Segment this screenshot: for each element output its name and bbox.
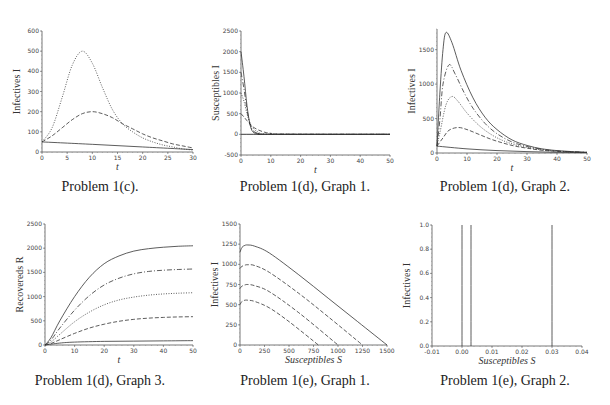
x-tick-label: 10 <box>463 155 471 162</box>
x-tick-label: 0 <box>435 155 439 162</box>
caption-4: Problem 1(d), Graph 3. <box>0 373 200 389</box>
y-tick-label: 250 <box>226 321 238 328</box>
series-line <box>241 93 390 134</box>
y-tick-label: 500 <box>226 301 238 308</box>
y-tick-label: 300 <box>28 88 40 95</box>
y-tick-label: 400 <box>28 67 40 74</box>
x-tick-label: 5 <box>65 154 69 161</box>
y-tick-label: 2000 <box>223 48 238 55</box>
chart-5: 0250500750100012501500025050075010001250… <box>209 220 395 365</box>
y-tick-label: 1500 <box>27 268 42 275</box>
x-tick-label: 0 <box>43 347 47 354</box>
y-tick-label: 1000 <box>27 293 42 300</box>
x-tick-label: 750 <box>308 347 320 354</box>
y-tick-label: 500 <box>423 115 435 122</box>
x-tick-label: 30 <box>189 154 197 161</box>
y-tick-label: 1000 <box>223 89 238 96</box>
x-tick-label: -0.01 <box>424 348 440 355</box>
series-line <box>240 284 338 345</box>
x-tick-label: 0.04 <box>575 348 589 355</box>
x-axis-label: t <box>314 164 317 175</box>
y-tick-label: 0.0 <box>419 342 429 349</box>
x-tick-label: 20 <box>297 157 305 164</box>
y-tick-label: 1500 <box>419 46 434 53</box>
chart-6: -0.010.000.010.020.030.040.00.20.40.60.8… <box>401 221 589 366</box>
x-axis-label: t <box>511 162 514 173</box>
x-tick-label: 40 <box>356 157 364 164</box>
y-tick-label: 500 <box>31 317 43 324</box>
x-tick-label: 25 <box>164 154 172 161</box>
chart-1: 0510152025300100200300400500600Infective… <box>11 27 197 172</box>
x-tick-label: 20 <box>493 155 501 162</box>
caption-6: Problem 1(e), Graph 2. <box>405 373 605 389</box>
x-tick-label: 0 <box>238 347 242 354</box>
y-axis-label: Infectives I <box>406 68 417 113</box>
x-tick-label: 0 <box>40 154 44 161</box>
series-line <box>45 341 193 345</box>
series-line <box>45 246 193 345</box>
y-tick-label: 0 <box>233 341 237 348</box>
x-tick-label: 30 <box>327 157 335 164</box>
series-line <box>437 96 587 152</box>
x-tick-label: 1500 <box>379 347 394 354</box>
y-tick-label: 100 <box>28 128 40 135</box>
y-tick-label: 1500 <box>223 68 238 75</box>
chart-4: 0102030405005001000150020002500Recovered… <box>14 220 197 365</box>
x-tick-label: 10 <box>71 347 79 354</box>
y-tick-label: 750 <box>226 281 238 288</box>
y-axis-label: Infectives I <box>11 69 22 114</box>
x-tick-label: 30 <box>130 347 138 354</box>
y-tick-label: 1000 <box>419 80 434 87</box>
y-tick-label: 1.0 <box>419 221 429 228</box>
x-tick-label: 500 <box>283 347 295 354</box>
y-tick-label: 1250 <box>222 240 237 247</box>
x-tick-label: 1250 <box>355 347 370 354</box>
y-tick-label: 0 <box>38 341 42 348</box>
y-tick-label: 500 <box>227 110 239 117</box>
series-line <box>45 269 193 345</box>
y-axis-label: Infectives I <box>209 262 220 307</box>
x-tick-label: 40 <box>553 155 561 162</box>
y-tick-label: 0.4 <box>419 294 429 301</box>
series-line <box>240 300 318 345</box>
series-line <box>437 32 587 152</box>
x-tick-label: 10 <box>89 154 97 161</box>
series-line <box>241 72 390 134</box>
y-tick-label: -500 <box>224 151 238 158</box>
y-tick-label: 1000 <box>222 260 237 267</box>
x-tick-label: 15 <box>114 154 122 161</box>
y-tick-label: 0.8 <box>419 245 429 252</box>
x-tick-label: 0.01 <box>485 348 499 355</box>
y-axis-label: Recovereds R <box>14 256 25 312</box>
x-tick-label: 1000 <box>330 347 345 354</box>
y-axis-label: Susceptibles I <box>210 65 221 121</box>
x-axis-label: t <box>118 354 121 365</box>
x-tick-label: 0.00 <box>455 348 469 355</box>
series-line <box>241 114 390 135</box>
series-line <box>437 65 587 153</box>
x-tick-label: 0.02 <box>515 348 529 355</box>
y-tick-label: 2500 <box>223 27 238 34</box>
series-line <box>42 51 193 150</box>
chart-3: 01020304050050010001500Infectives It <box>406 29 591 173</box>
x-tick-label: 50 <box>189 347 197 354</box>
x-axis-label: Susceptibles S <box>285 354 342 365</box>
y-axis-label: Infectives I <box>401 263 412 308</box>
y-tick-label: 0.2 <box>419 318 429 325</box>
caption-2: Problem 1(d), Graph 1. <box>205 179 405 195</box>
charts-canvas: 0510152025300100200300400500600Infective… <box>0 0 610 405</box>
series-line <box>241 52 390 135</box>
x-axis-label: t <box>116 161 119 172</box>
series-line <box>42 112 193 148</box>
caption-3: Problem 1(d), Graph 2. <box>405 179 605 195</box>
x-tick-label: 40 <box>160 347 168 354</box>
y-tick-label: 2500 <box>27 220 42 227</box>
x-tick-label: 0 <box>239 157 243 164</box>
x-axis-label: Susceptibles S <box>479 355 536 366</box>
caption-5: Problem 1(e), Graph 1. <box>205 373 405 389</box>
y-tick-label: 0 <box>234 130 238 137</box>
y-tick-label: 500 <box>28 47 40 54</box>
x-tick-label: 10 <box>267 157 275 164</box>
x-tick-label: 0.03 <box>545 348 559 355</box>
y-tick-label: 0.6 <box>419 269 429 276</box>
